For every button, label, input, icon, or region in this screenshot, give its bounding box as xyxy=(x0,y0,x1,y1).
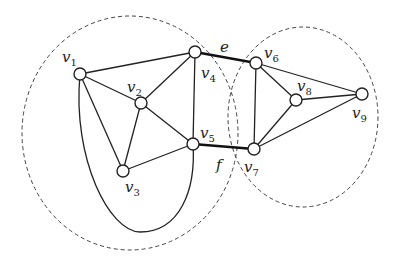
node-v1 xyxy=(74,68,86,80)
graph-labels: efv1v2v3v4v5v6v7v8v9 xyxy=(62,38,367,198)
node-label-v2: v2 xyxy=(127,78,142,98)
node-label-v1: v1 xyxy=(62,48,77,68)
node-label-v8: v8 xyxy=(297,77,312,97)
node-v6 xyxy=(250,57,262,69)
edge-label-e: e xyxy=(220,38,229,56)
node-v7 xyxy=(248,143,260,155)
bridge-edge-f xyxy=(193,144,254,149)
edge-label-f: f xyxy=(215,156,224,174)
edge-v6-v7 xyxy=(254,63,256,149)
edge-v8-v7 xyxy=(254,100,296,149)
graph-diagram: efv1v2v3v4v5v6v7v8v9 xyxy=(0,0,397,262)
edge-v2-v4 xyxy=(141,52,195,103)
node-label-v6: v6 xyxy=(264,44,279,64)
edge-v2-v5 xyxy=(141,103,193,144)
node-v4 xyxy=(189,46,201,58)
node-label-v3: v3 xyxy=(125,178,140,198)
node-v9 xyxy=(356,88,368,100)
edge-v1-v4 xyxy=(80,52,195,74)
edge-v7-v9 xyxy=(254,94,362,149)
node-label-v4: v4 xyxy=(201,64,216,84)
node-v8 xyxy=(290,94,302,106)
edge-v2-v3 xyxy=(123,103,141,171)
node-v5 xyxy=(187,138,199,150)
edge-v3-v5 xyxy=(123,144,193,171)
node-label-v7: v7 xyxy=(244,158,259,178)
node-label-v9: v9 xyxy=(352,104,367,124)
node-label-v5: v5 xyxy=(200,124,215,144)
node-v2 xyxy=(135,97,147,109)
edge-v4-v5 xyxy=(193,52,195,144)
node-v3 xyxy=(117,165,129,177)
